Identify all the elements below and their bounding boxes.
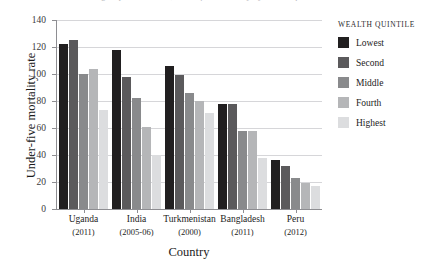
y-tick-mark: 40 (52, 155, 56, 156)
bar (142, 127, 151, 209)
legend-label: Fourth (356, 98, 381, 108)
legend-item[interactable]: Middle (338, 77, 424, 88)
bar (291, 178, 300, 209)
legend-items: LowestSecondMiddleFourthHighest (338, 37, 424, 128)
x-category-label: Bangladesh(2011) (216, 213, 269, 238)
bar-groups (57, 20, 322, 209)
bar (99, 110, 108, 209)
y-tick-mark: 80 (52, 101, 56, 102)
legend-swatch (338, 117, 349, 128)
legend-item[interactable]: Second (338, 57, 424, 68)
bar (112, 50, 121, 209)
y-tick-mark: 120 (52, 47, 56, 48)
x-category-label: Peru(2012) (269, 213, 322, 238)
y-tick-mark: 20 (52, 182, 56, 183)
y-tick-label: 80 (37, 96, 47, 106)
y-tick-label: 0 (41, 204, 46, 214)
legend-label: Highest (356, 118, 386, 128)
legend-swatch (338, 97, 349, 108)
x-category-label: Uganda(2011) (57, 213, 110, 238)
x-category-name: India (127, 214, 147, 224)
bar (165, 66, 174, 209)
x-category-year: (2000) (163, 226, 216, 239)
bar (258, 158, 267, 209)
bar (195, 101, 204, 209)
legend-item[interactable]: Fourth (338, 97, 424, 108)
bar-group (216, 20, 269, 209)
bar (205, 113, 214, 209)
legend-label: Lowest (356, 38, 384, 48)
y-tick-label: 60 (37, 123, 47, 133)
bar (185, 93, 194, 209)
x-category-label: India(2005-06) (110, 213, 163, 238)
y-tick-mark: 140 (52, 20, 56, 21)
bar (79, 74, 88, 209)
x-category-year: (2012) (269, 226, 322, 239)
bar-group (163, 20, 216, 209)
y-tick-label: 120 (32, 42, 46, 52)
y-tick-mark: 100 (52, 74, 56, 75)
y-tick-label: 20 (37, 177, 47, 187)
cropped-title-sliver: grouped bar chart, under-five mortality … (0, 0, 424, 3)
plot-area: 020406080100120140 (56, 20, 322, 210)
x-category-name: Peru (287, 214, 304, 224)
legend-swatch (338, 57, 349, 68)
chart-figure: grouped bar chart, under-five mortality … (0, 0, 424, 275)
x-category-year: (2011) (216, 226, 269, 239)
x-axis-category-labels: Uganda(2011)India(2005-06)Turkmenistan(2… (57, 213, 322, 238)
bar (248, 131, 257, 209)
y-tick-mark: 0 (52, 209, 56, 210)
legend-swatch (338, 37, 349, 48)
legend-item[interactable]: Highest (338, 117, 424, 128)
x-category-label: Turkmenistan(2000) (163, 213, 216, 238)
bar (122, 77, 131, 209)
bar-group (57, 20, 110, 209)
bar-group (269, 20, 322, 209)
bar (271, 160, 280, 209)
y-tick-label: 40 (37, 150, 47, 160)
bar (311, 186, 320, 209)
bar (152, 155, 161, 209)
y-tick-label: 140 (32, 15, 46, 25)
y-tick-label: 100 (32, 69, 46, 79)
bar (175, 75, 184, 209)
x-category-name: Bangladesh (220, 214, 264, 224)
bar (228, 104, 237, 209)
bar (238, 131, 247, 209)
legend-item[interactable]: Lowest (338, 37, 424, 48)
x-category-name: Turkmenistan (163, 214, 215, 224)
legend: WEALTH QUINTILE LowestSecondMiddleFourth… (338, 20, 424, 137)
bar-group (110, 20, 163, 209)
bar (301, 183, 310, 209)
bar (59, 44, 68, 209)
bar (69, 40, 78, 209)
legend-title: WEALTH QUINTILE (338, 20, 424, 29)
x-category-name: Uganda (69, 214, 99, 224)
legend-label: Middle (356, 78, 383, 88)
y-tick-mark: 60 (52, 128, 56, 129)
bar (218, 104, 227, 209)
bar (281, 166, 290, 209)
x-category-year: (2005-06) (110, 226, 163, 239)
legend-swatch (338, 77, 349, 88)
x-axis-title: Country (56, 245, 322, 260)
legend-label: Second (356, 58, 384, 68)
bar (132, 98, 141, 209)
bar (89, 69, 98, 209)
x-category-year: (2011) (57, 226, 110, 239)
